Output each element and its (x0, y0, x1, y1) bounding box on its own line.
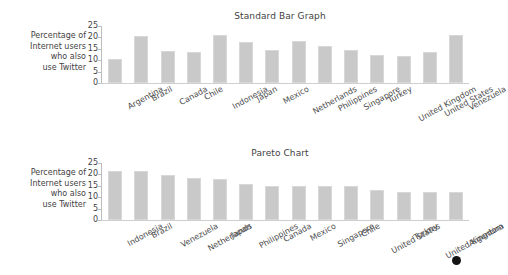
bar-slot (259, 163, 285, 220)
y-axis-caption-line-3: who also (8, 189, 86, 200)
y-axis-caption-bottom: Percentage of Internet users who also us… (8, 168, 86, 210)
chart-title-standard-bar-graph: Standard Bar Graph (150, 11, 410, 21)
bar-philippines (239, 184, 253, 220)
y-tick-label-25: 25 (82, 22, 98, 30)
y-axis-caption-line-1: Percentage of (8, 168, 86, 179)
y-tick-label-5: 5 (82, 205, 98, 213)
bar-slot (181, 163, 207, 220)
bar-netherlands (187, 178, 201, 220)
y-axis-caption-top: Percentage of Internet users who also us… (8, 31, 86, 73)
bar-chile (187, 52, 201, 83)
bar-slot (233, 26, 259, 83)
bar-slot (286, 163, 312, 220)
bar-slot (181, 26, 207, 83)
bar-united-kingdom (423, 192, 437, 220)
y-axis-caption-line-1: Percentage of (8, 31, 86, 42)
bar-philippines (318, 46, 332, 83)
bar-turkey (370, 55, 384, 83)
bar-slot (207, 26, 233, 83)
y-tick-mark-20 (98, 37, 101, 38)
y-tick-label-25: 25 (82, 159, 98, 167)
category-label-text: Argentina (467, 221, 506, 248)
bar-slot (417, 163, 443, 220)
bar-slot (443, 26, 469, 83)
chart-title-pareto-chart: Pareto Chart (150, 148, 410, 158)
y-axis-caption-line-3: who also (8, 52, 86, 63)
x-axis-category-labels-top: ArgentinaBrazilCanadaChileIndonesiaJapan… (102, 84, 469, 132)
bar-slot (154, 163, 180, 220)
bar-slot (154, 26, 180, 83)
bar-canada (161, 51, 175, 83)
bar-slot (364, 163, 390, 220)
bar-slot (102, 163, 128, 220)
pareto-chart-figure: Pareto Chart Percentage of Internet user… (0, 137, 480, 275)
bar-slot (338, 26, 364, 83)
bar-slot (233, 163, 259, 220)
bar-slot (312, 26, 338, 83)
bar-slot (259, 26, 285, 83)
bar-slot (312, 163, 338, 220)
y-tick-label-0: 0 (82, 79, 98, 87)
bar-chile (344, 186, 358, 220)
bar-singapore (344, 50, 358, 83)
bar-slot (102, 26, 128, 83)
y-axis-caption-line-4: use Twitter (8, 200, 86, 211)
y-tick-mark-15 (98, 49, 101, 50)
bar-venezuela (449, 35, 463, 83)
y-axis-caption-line-2: Internet users (8, 42, 86, 53)
bar-mexico (265, 50, 279, 83)
bar-united-kingdom (397, 56, 411, 83)
category-label-argentina: Argentina (467, 221, 506, 248)
bar-netherlands (292, 41, 306, 83)
y-tick-label-15: 15 (82, 45, 98, 53)
bar-japan (213, 179, 227, 220)
y-tick-mark-20 (98, 174, 101, 175)
y-tick-mark-5 (98, 72, 101, 73)
plot-area-bottom (101, 163, 469, 220)
y-tick-mark-10 (98, 197, 101, 198)
y-tick-label-5: 5 (82, 68, 98, 76)
bar-brazil (134, 36, 148, 83)
bar-argentina (108, 59, 122, 83)
bar-slot (390, 26, 416, 83)
bar-united-states (370, 190, 384, 220)
bar-slot (390, 163, 416, 220)
bar-slot (417, 26, 443, 83)
category-label-text: Chile (360, 221, 382, 239)
category-label-text: Japan (229, 221, 253, 240)
y-tick-mark-5 (98, 209, 101, 210)
y-tick-label-15: 15 (82, 182, 98, 190)
y-tick-mark-0 (98, 220, 101, 221)
category-label-text: Mexico (282, 84, 311, 105)
bar-canada (265, 186, 279, 220)
y-axis-caption-line-2: Internet users (8, 179, 86, 190)
bar-slot (443, 163, 469, 220)
x-axis-category-labels-bottom: IndonesiaBrazilVenezuelaNetherlandsJapan… (102, 221, 469, 269)
y-tick-label-10: 10 (82, 193, 98, 201)
bar-singapore (318, 186, 332, 220)
bar-turkey (397, 192, 411, 221)
mouse-cursor-dot (452, 256, 461, 265)
bar-series-top (102, 26, 469, 83)
bar-japan (239, 42, 253, 83)
bar-mexico (292, 186, 306, 220)
plot-area-top (101, 26, 469, 83)
bar-argentina (449, 192, 463, 220)
bar-brazil (134, 171, 148, 220)
bar-slot (338, 163, 364, 220)
y-tick-mark-10 (98, 60, 101, 61)
bar-slot (128, 26, 154, 83)
y-tick-mark-25 (98, 163, 101, 164)
bar-united-states (423, 52, 437, 83)
category-label-mexico: Mexico (308, 221, 338, 243)
standard-bar-graph-figure: Standard Bar Graph Percentage of Interne… (0, 0, 480, 137)
bar-indonesia (213, 35, 227, 83)
bar-venezuela (161, 175, 175, 220)
bar-slot (128, 163, 154, 220)
bar-slot (364, 26, 390, 83)
y-tick-label-20: 20 (82, 33, 98, 41)
y-axis-caption-line-4: use Twitter (8, 63, 86, 74)
bar-indonesia (108, 171, 122, 220)
category-label-japan: Japan (229, 221, 254, 240)
bar-slot (286, 26, 312, 83)
